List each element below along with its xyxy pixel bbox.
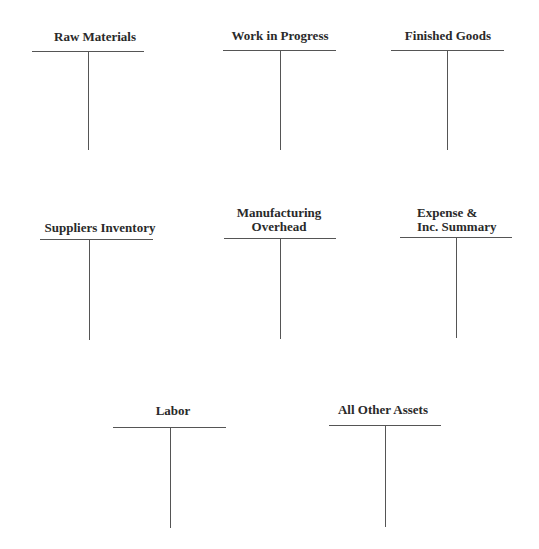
account-title: Finished Goods: [405, 29, 491, 43]
account-title-line-1: Expense &: [417, 206, 477, 220]
t-account-divider-line: [280, 50, 281, 150]
t-account-divider-line: [456, 237, 457, 338]
account-title: Raw Materials: [54, 30, 136, 44]
account-title: Suppliers Inventory: [45, 221, 156, 235]
t-account-divider-line: [447, 50, 448, 150]
t-account-divider-line: [170, 427, 171, 528]
account-title: All Other Assets: [338, 403, 428, 417]
account-title: Labor: [156, 404, 191, 418]
t-account-divider-line: [89, 239, 90, 340]
t-account-divider-line: [385, 425, 386, 527]
account-title-line-2: Inc. Summary: [417, 220, 496, 234]
account-title: Work in Progress: [231, 29, 328, 43]
account-title-line-2: Overhead: [252, 220, 307, 234]
account-title-line-1: Manufacturing: [237, 206, 322, 220]
t-account-divider-line: [280, 238, 281, 339]
t-account-top-line: [40, 239, 153, 240]
t-account-divider-line: [88, 51, 89, 150]
